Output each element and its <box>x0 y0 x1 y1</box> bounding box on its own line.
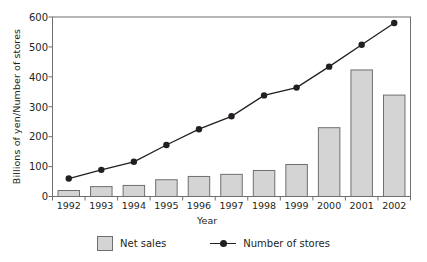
legend-item-number-of-stores: Number of stores <box>210 239 330 249</box>
x-tick-label: 1997 <box>219 200 243 211</box>
bar <box>383 95 404 196</box>
x-tick-label: 1993 <box>89 200 113 211</box>
bar <box>318 128 339 197</box>
x-tick-label: 1992 <box>57 200 81 211</box>
data-point <box>196 126 202 132</box>
bar <box>58 191 79 197</box>
data-point <box>66 175 72 181</box>
x-tick-label: 1994 <box>122 200 146 211</box>
legend-label: Net sales <box>120 239 166 249</box>
bar <box>253 170 274 196</box>
legend-label: Number of stores <box>243 239 330 249</box>
bar <box>351 70 372 197</box>
x-tick-label: 2001 <box>350 200 374 211</box>
bar <box>123 185 144 196</box>
x-tick-label: 1996 <box>187 200 211 211</box>
bar <box>221 174 242 196</box>
bar <box>286 164 307 196</box>
bar <box>156 180 177 197</box>
data-point <box>131 159 137 165</box>
x-tick-label: 2002 <box>382 200 406 211</box>
x-tick-label: 1995 <box>154 200 178 211</box>
x-tick-label: 1999 <box>284 200 308 211</box>
data-point <box>293 84 299 90</box>
x-tick-label: 1998 <box>252 200 276 211</box>
bar <box>188 176 209 196</box>
data-point <box>228 113 234 119</box>
data-point <box>358 42 364 48</box>
x-tick-label: 2000 <box>317 200 341 211</box>
square-swatch-icon <box>97 236 113 251</box>
data-point <box>163 142 169 148</box>
data-point <box>98 167 104 173</box>
line-series-number-of-stores <box>66 20 398 182</box>
x-axis-label: Year <box>197 215 217 226</box>
chart-figure: Billions of yen/Number of stores 0 100 2… <box>0 0 427 262</box>
data-point <box>391 20 397 26</box>
bar-series-net-sales <box>58 70 405 197</box>
legend-item-net-sales: Net sales <box>97 236 166 251</box>
bar <box>91 187 112 197</box>
data-point <box>261 92 267 98</box>
chart-legend: Net sales Number of stores <box>0 236 427 251</box>
line-with-dot-icon <box>210 239 236 249</box>
data-point <box>326 63 332 69</box>
